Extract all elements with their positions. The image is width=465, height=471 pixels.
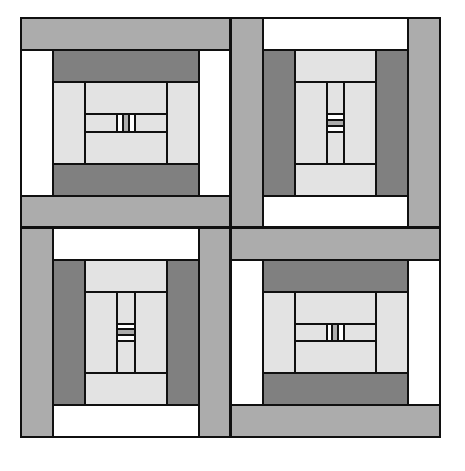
block-top-right-ring3-top-strip bbox=[344, 82, 376, 164]
block-bottom-right-ring2-bottom-strip bbox=[263, 260, 409, 292]
block-bottom-right-ring1-right-strip bbox=[231, 260, 263, 406]
block-top-left-ring1-left-strip bbox=[21, 50, 53, 196]
block-bottom-left-ring3-right-strip bbox=[117, 292, 135, 324]
quilt-canvas bbox=[0, 0, 465, 471]
block-top-left-ring2-right-strip bbox=[167, 82, 199, 164]
block-bottom-left-ring2-right-strip bbox=[85, 260, 167, 292]
block-bottom-left-ring1-right-strip bbox=[53, 228, 199, 260]
block-top-right-ring1-left-strip bbox=[263, 18, 409, 50]
block-top-left bbox=[21, 18, 231, 228]
block-bottom-right-ring2-top-strip bbox=[263, 373, 409, 405]
block-top-right-ring3-bottom-strip bbox=[295, 82, 327, 164]
block-bottom-right-ring1-bottom-strip bbox=[231, 228, 441, 260]
quilt-svg-surface bbox=[0, 0, 465, 471]
block-bottom-right-ring3-right-strip bbox=[295, 324, 327, 342]
block-bottom-left-ring1-bottom-strip bbox=[199, 228, 231, 438]
block-top-left-ring2-top-strip bbox=[53, 50, 199, 82]
block-bottom-left-center-right-square bbox=[117, 324, 135, 330]
block-bottom-left-ring2-bottom-strip bbox=[167, 260, 199, 406]
block-bottom-left-ring3-bottom-strip bbox=[135, 292, 167, 374]
block-top-left-ring1-top-strip bbox=[21, 18, 231, 50]
block-bottom-right-ring2-right-strip bbox=[263, 292, 295, 374]
block-top-left-ring3-right-strip bbox=[135, 114, 167, 132]
block-top-left-ring3-left-strip bbox=[85, 114, 117, 132]
block-top-right-ring1-right-strip bbox=[263, 196, 409, 228]
block-top-left-ring3-top-strip bbox=[85, 82, 167, 114]
quilt-artwork bbox=[0, 0, 465, 471]
block-bottom-left-ring2-top-strip bbox=[53, 260, 85, 406]
block-top-right-ring1-top-strip bbox=[408, 18, 440, 228]
block-top-right-ring2-top-strip bbox=[376, 50, 408, 196]
block-bottom-right-ring3-left-strip bbox=[344, 324, 376, 342]
block-top-right bbox=[231, 18, 441, 228]
block-top-left-ring3-bottom-strip bbox=[85, 132, 167, 164]
block-top-left-ring2-left-strip bbox=[53, 82, 85, 164]
block-top-right-ring3-right-strip bbox=[327, 132, 345, 164]
block-bottom-left-ring3-left-strip bbox=[117, 341, 135, 373]
block-bottom-left bbox=[21, 228, 231, 438]
block-bottom-left-ring3-top-strip bbox=[85, 292, 117, 374]
block-bottom-right-center-right-square bbox=[327, 324, 333, 342]
block-bottom-right-ring1-left-strip bbox=[408, 260, 440, 406]
block-bottom-right-ring3-top-strip bbox=[295, 341, 377, 373]
block-top-right-center-right-square bbox=[327, 126, 345, 132]
block-top-right-ring3-left-strip bbox=[327, 82, 345, 114]
block-top-left-ring2-bottom-strip bbox=[53, 164, 199, 196]
block-bottom-left-ring1-top-strip bbox=[21, 228, 53, 438]
block-top-left-ring1-bottom-strip bbox=[21, 196, 231, 228]
block-bottom-right-ring3-bottom-strip bbox=[295, 292, 377, 324]
block-bottom-right bbox=[231, 228, 441, 438]
block-bottom-left-ring2-left-strip bbox=[85, 373, 167, 405]
block-top-right-ring2-bottom-strip bbox=[263, 50, 295, 196]
block-top-left-ring1-right-strip bbox=[199, 50, 231, 196]
block-bottom-right-ring2-left-strip bbox=[376, 292, 408, 374]
block-top-right-ring2-left-strip bbox=[295, 50, 377, 82]
block-top-right-ring1-bottom-strip bbox=[231, 18, 263, 228]
block-top-left-center-right-square bbox=[129, 114, 135, 132]
block-bottom-left-ring1-left-strip bbox=[53, 405, 199, 437]
block-top-right-ring2-right-strip bbox=[295, 164, 377, 196]
block-bottom-right-ring1-top-strip bbox=[231, 405, 441, 437]
